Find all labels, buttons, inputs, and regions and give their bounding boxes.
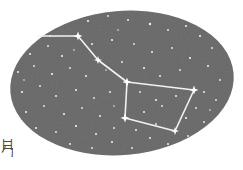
background-star bbox=[175, 95, 177, 97]
background-star bbox=[113, 127, 115, 129]
star-core bbox=[174, 130, 177, 133]
background-star bbox=[207, 65, 209, 67]
background-star bbox=[63, 113, 65, 115]
background-star bbox=[69, 67, 71, 69]
background-star bbox=[143, 111, 145, 113]
background-star bbox=[95, 133, 97, 135]
night-sky-canvas bbox=[0, 0, 243, 170]
background-star bbox=[127, 19, 129, 21]
background-star bbox=[121, 61, 123, 63]
background-star bbox=[117, 29, 119, 31]
background-star bbox=[91, 43, 93, 45]
background-star bbox=[75, 89, 77, 91]
background-star bbox=[99, 115, 101, 117]
background-star bbox=[75, 125, 77, 127]
background-star bbox=[29, 53, 31, 55]
background-star bbox=[109, 91, 111, 93]
star-handle-end bbox=[30, 32, 39, 41]
star-core bbox=[97, 59, 100, 62]
background-star bbox=[195, 107, 197, 109]
background-star bbox=[189, 57, 191, 59]
background-star bbox=[73, 49, 75, 51]
background-star bbox=[187, 135, 189, 137]
background-star bbox=[25, 111, 27, 113]
background-star bbox=[61, 55, 63, 57]
background-star bbox=[167, 29, 169, 31]
star-core bbox=[123, 116, 126, 119]
background-star bbox=[111, 141, 113, 143]
background-star bbox=[149, 137, 151, 139]
background-star bbox=[47, 45, 49, 47]
background-star bbox=[219, 79, 221, 81]
background-star bbox=[87, 20, 89, 22]
sky-grain-overlay bbox=[0, 0, 243, 170]
star-core bbox=[32, 34, 35, 37]
background-star bbox=[179, 69, 181, 71]
background-star bbox=[199, 35, 201, 37]
background-star bbox=[215, 99, 217, 101]
background-star bbox=[45, 23, 47, 25]
background-star bbox=[81, 107, 83, 109]
background-star bbox=[171, 47, 173, 49]
background-star bbox=[51, 73, 53, 75]
background-star bbox=[185, 117, 187, 119]
background-star bbox=[143, 67, 145, 69]
background-star bbox=[167, 143, 169, 145]
background-star bbox=[131, 147, 133, 149]
background-star bbox=[21, 91, 23, 93]
background-star bbox=[203, 121, 205, 123]
background-star bbox=[135, 129, 137, 131]
background-star bbox=[93, 97, 95, 99]
background-star bbox=[55, 131, 57, 133]
corner-glyph-mark: 目 勹 bbox=[1, 139, 13, 157]
background-star bbox=[155, 123, 157, 125]
background-star bbox=[91, 147, 93, 149]
background-star bbox=[107, 15, 109, 17]
background-star bbox=[175, 15, 177, 17]
background-star bbox=[35, 127, 37, 129]
background-star bbox=[211, 47, 213, 49]
star-core bbox=[76, 34, 79, 37]
background-star bbox=[85, 75, 87, 77]
background-star bbox=[113, 105, 115, 107]
background-star bbox=[111, 39, 113, 41]
background-star bbox=[203, 91, 205, 93]
background-star bbox=[23, 79, 25, 81]
star-core bbox=[125, 80, 128, 83]
background-star bbox=[155, 99, 157, 101]
star-core bbox=[192, 88, 195, 91]
background-star bbox=[133, 43, 135, 45]
background-star bbox=[59, 17, 61, 19]
background-star bbox=[159, 75, 161, 77]
background-star bbox=[151, 51, 153, 53]
background-star bbox=[149, 23, 151, 25]
sky-ellipse-group bbox=[0, 0, 243, 170]
background-star bbox=[209, 109, 211, 111]
background-star bbox=[55, 95, 57, 97]
background-star bbox=[185, 25, 187, 27]
background-star bbox=[139, 91, 141, 93]
background-star bbox=[39, 85, 41, 87]
background-star bbox=[17, 71, 19, 73]
background-star bbox=[161, 105, 163, 107]
background-star bbox=[43, 105, 45, 107]
constellation-figure: 目 勹 bbox=[0, 0, 243, 170]
background-star bbox=[105, 69, 107, 71]
background-star bbox=[69, 143, 71, 145]
background-star bbox=[33, 65, 35, 67]
